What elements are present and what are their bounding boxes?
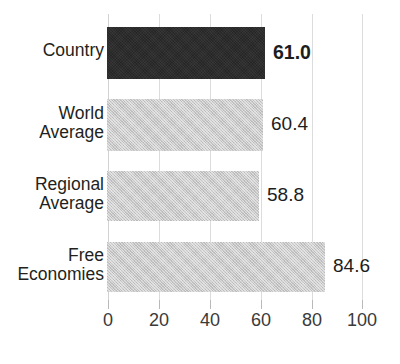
tick-mark-0 bbox=[108, 300, 109, 309]
tick-mark-80 bbox=[312, 300, 313, 309]
category-label-country: Country bbox=[0, 41, 104, 60]
x-axis-tick-label-60: 60 bbox=[251, 310, 271, 331]
value-label-free-economies: 84.6 bbox=[333, 255, 370, 277]
bar-free-economies[interactable] bbox=[107, 242, 325, 292]
tick-mark-20 bbox=[159, 300, 160, 309]
category-label-free-economies: Free Economies bbox=[0, 246, 104, 284]
x-axis-tick-label-0: 0 bbox=[103, 310, 113, 331]
bar-row-country: Country 61.0 bbox=[0, 27, 400, 79]
bar-world-average[interactable] bbox=[107, 99, 263, 151]
category-label-regional-average: Regional Average bbox=[0, 175, 104, 213]
x-axis-tick-label-80: 80 bbox=[302, 310, 322, 331]
bar-chart-plot-area: 0 20 40 60 80 100 Country 61.0 World Ave… bbox=[0, 0, 400, 364]
value-label-regional-average: 58.8 bbox=[267, 184, 304, 206]
category-label-world-average: World Average bbox=[0, 104, 104, 142]
tick-mark-60 bbox=[261, 300, 262, 309]
bar-country[interactable] bbox=[107, 27, 265, 79]
bar-row-regional-average: Regional Average 58.8 bbox=[0, 171, 400, 221]
tick-mark-40 bbox=[210, 300, 211, 309]
x-axis-tick-label-40: 40 bbox=[200, 310, 220, 331]
bar-row-world-average: World Average 60.4 bbox=[0, 99, 400, 151]
tick-mark-100 bbox=[362, 300, 363, 309]
bar-row-free-economies: Free Economies 84.6 bbox=[0, 242, 400, 292]
value-label-country: 61.0 bbox=[273, 41, 311, 64]
x-axis-tick-label-20: 20 bbox=[149, 310, 169, 331]
value-label-world-average: 60.4 bbox=[271, 113, 308, 135]
x-axis-tick-label-100: 100 bbox=[347, 310, 377, 331]
bar-regional-average[interactable] bbox=[107, 171, 259, 221]
